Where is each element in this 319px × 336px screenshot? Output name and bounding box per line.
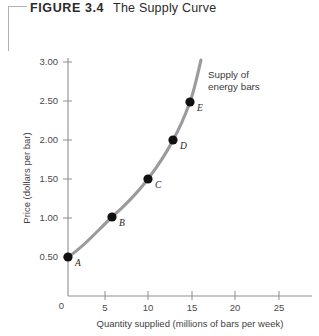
supply-curve-chart: 3.00 2.50 2.00 1.50 1.00 0.50 0 5 10 15 … xyxy=(0,0,319,336)
y-tick-label-1-00: 1.00 xyxy=(40,212,59,223)
y-tick-label-1-50: 1.50 xyxy=(40,173,59,184)
data-point-label-b: B xyxy=(119,218,125,228)
data-point-d xyxy=(168,135,177,144)
y-tick-label-0-50: 0.50 xyxy=(40,251,59,262)
y-tick-label-2-50: 2.50 xyxy=(40,95,59,106)
y-axis-title: Price (dollars per bar) xyxy=(21,132,32,223)
origin-label: 0 xyxy=(59,300,64,311)
data-point-a xyxy=(63,252,72,261)
x-axis-title: Quantity supplied (millions of bars per … xyxy=(97,318,284,329)
data-point-label-c: C xyxy=(155,180,162,190)
data-point-c xyxy=(143,174,152,183)
supply-curve-line xyxy=(68,60,201,257)
x-tick-label-25: 25 xyxy=(274,302,285,313)
curve-annotation-line1: Supply of xyxy=(208,69,249,80)
data-point-label-e: E xyxy=(196,103,203,113)
data-point-label-a: A xyxy=(74,258,81,268)
data-point-e xyxy=(185,97,194,106)
y-tick-label-3-00: 3.00 xyxy=(40,56,59,67)
figure-container: FIGURE 3.4The Supply Curve 3.00 2.50 2.0… xyxy=(0,0,319,336)
x-tick-label-20: 20 xyxy=(230,302,241,313)
y-tick-label-2-00: 2.00 xyxy=(40,134,59,145)
x-tick-label-15: 15 xyxy=(187,302,198,313)
data-point-label-d: D xyxy=(179,141,187,151)
data-point-b xyxy=(107,212,116,221)
x-tick-label-10: 10 xyxy=(143,302,154,313)
curve-annotation-line2: energy bars xyxy=(208,81,260,92)
x-tick-label-5: 5 xyxy=(102,302,107,313)
